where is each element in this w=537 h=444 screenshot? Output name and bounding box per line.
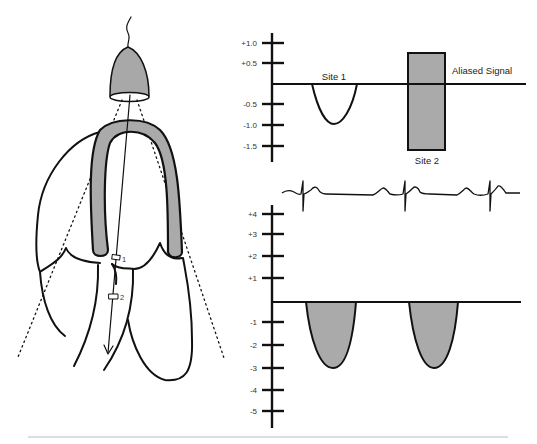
heart-diagram <box>18 17 224 380</box>
bottom-tick-label: -1 <box>250 318 258 327</box>
top-velocity-chart <box>262 33 526 162</box>
ecg-trace <box>282 181 520 211</box>
site2-label: Site 2 <box>415 155 439 166</box>
figure-canvas: 1 2 +1.0 +0.5 -0.5 -1.0 -1.5 Site 1 Site… <box>0 0 537 444</box>
bottom-tick-label: +4 <box>248 210 258 219</box>
top-tick-label: +1.0 <box>241 39 257 48</box>
ventricle-septum-left <box>74 265 98 366</box>
sample-label-2: 2 <box>120 293 124 302</box>
bottom-tick-label: +1 <box>248 274 258 283</box>
aliased-signal-label: Aliased Signal <box>452 65 512 76</box>
top-tick-label: -1.0 <box>243 121 257 130</box>
site1-label: Site 1 <box>322 71 346 82</box>
sample-volume-2 <box>109 294 118 299</box>
valve-line-left <box>40 248 100 272</box>
bottom-tick-label: +2 <box>248 252 258 261</box>
transducer-probe-icon <box>110 47 149 96</box>
bottom-tick-label: -2 <box>250 341 258 350</box>
ventricle-left-outer <box>40 272 65 336</box>
bottom-tick-label: +3 <box>248 230 258 239</box>
outflow-arch <box>91 120 182 257</box>
probe-cable <box>127 17 131 47</box>
flow-envelope-1 <box>306 302 356 368</box>
flow-envelope-2 <box>409 302 458 368</box>
top-tick-label: +0.5 <box>241 59 257 68</box>
aliased-signal-block <box>408 53 445 150</box>
bottom-y-labels: +4 +3 +2 +1 -1 -2 -3 -4 -5 <box>248 210 258 416</box>
bottom-tick-label: -5 <box>250 407 258 416</box>
bottom-tick-label: -4 <box>250 386 258 395</box>
bottom-spectral-chart <box>262 205 521 428</box>
site1-trough <box>312 84 357 124</box>
right-ventricle <box>128 258 192 380</box>
top-tick-label: -1.5 <box>243 142 257 151</box>
sample-volume-1 <box>112 254 121 260</box>
top-tick-label: -0.5 <box>243 100 257 109</box>
top-y-labels: +1.0 +0.5 -0.5 -1.0 -1.5 <box>241 39 257 151</box>
bottom-tick-label: -3 <box>250 364 258 373</box>
sample-label-1: 1 <box>122 255 126 264</box>
